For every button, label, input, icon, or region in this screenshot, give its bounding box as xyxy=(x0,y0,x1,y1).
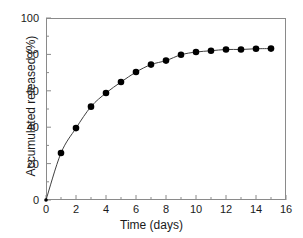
data-point xyxy=(238,46,245,53)
x-axis-title: Time (days) xyxy=(0,218,303,232)
x-tick-label: 6 xyxy=(133,203,139,215)
data-point xyxy=(44,198,48,202)
data-point xyxy=(148,61,155,68)
data-point xyxy=(133,69,140,76)
data-point xyxy=(178,51,185,58)
x-tick-label: 16 xyxy=(280,203,292,215)
data-point xyxy=(193,49,200,56)
x-tick-label: 14 xyxy=(250,203,262,215)
data-line xyxy=(46,49,271,200)
data-point xyxy=(58,150,65,157)
data-point xyxy=(118,79,125,86)
data-point xyxy=(73,125,80,132)
y-axis-ticks xyxy=(46,18,51,200)
x-axis-ticks xyxy=(46,195,286,200)
series-line xyxy=(46,49,271,200)
data-point xyxy=(88,103,95,110)
data-point xyxy=(268,45,275,52)
x-tick-label: 0 xyxy=(43,203,49,215)
data-point xyxy=(208,47,215,54)
x-tick-label: 8 xyxy=(163,203,169,215)
data-point xyxy=(163,57,170,64)
x-tick-label: 10 xyxy=(190,203,202,215)
x-tick-label: 4 xyxy=(103,203,109,215)
data-point xyxy=(103,90,110,97)
x-tick-label: 12 xyxy=(220,203,232,215)
x-tick-label: 2 xyxy=(73,203,79,215)
y-axis-title: Accumulated released (%) xyxy=(24,15,38,197)
data-point xyxy=(223,46,230,53)
data-point xyxy=(253,45,260,52)
chart-figure: 0246810121416 020406080100 Time (days) A… xyxy=(0,0,303,238)
